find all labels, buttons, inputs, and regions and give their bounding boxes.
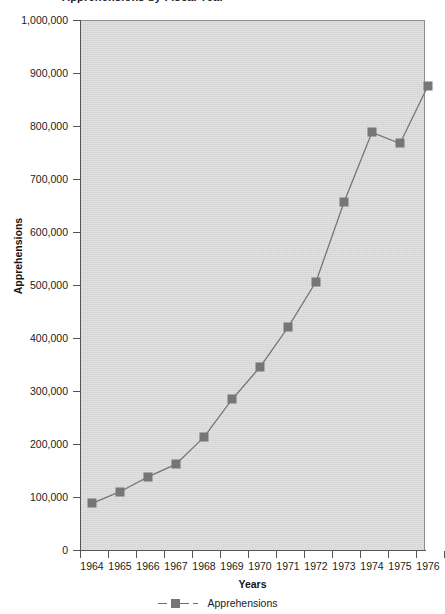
- y-axis-title: Apprehensions: [12, 176, 24, 336]
- plot-area: [80, 20, 425, 550]
- legend-entry-apprehensions: Apprehensions: [158, 597, 277, 609]
- x-axis-tick: [108, 551, 109, 558]
- data-point-marker: [256, 363, 265, 372]
- y-axis-tick: [73, 497, 80, 498]
- data-point-marker: [284, 323, 293, 332]
- data-point-marker: [396, 139, 405, 148]
- x-axis-tick: [192, 551, 193, 558]
- y-axis-tick-label: 300,000: [30, 386, 68, 397]
- plot-texture: [80, 21, 424, 550]
- legend-label: Apprehensions: [207, 597, 277, 609]
- x-axis-tick-label: 1964: [80, 561, 103, 572]
- data-point-marker: [340, 198, 349, 207]
- x-axis-tick: [276, 551, 277, 558]
- x-axis-tick-label: 1971: [276, 561, 299, 572]
- x-axis-tick-label: 1965: [108, 561, 131, 572]
- x-axis-tick-label: 1973: [332, 561, 355, 572]
- x-axis-tick-label: 1975: [388, 561, 411, 572]
- y-axis-tick: [73, 179, 80, 180]
- y-axis-tick-label: 800,000: [30, 121, 68, 132]
- x-axis-tick-label: 1967: [164, 561, 187, 572]
- x-axis-tick: [164, 551, 165, 558]
- y-axis-tick: [73, 550, 80, 551]
- y-axis-tick: [73, 126, 80, 127]
- x-axis-tick: [80, 551, 81, 558]
- y-axis-tick: [73, 232, 80, 233]
- x-axis-title: Years: [80, 578, 425, 590]
- y-axis-line: [80, 20, 81, 551]
- y-axis-tick-label: 600,000: [30, 227, 68, 238]
- data-point-marker: [172, 460, 181, 469]
- y-axis-tick-label: 400,000: [30, 333, 68, 344]
- y-axis-tick-label: 700,000: [30, 174, 68, 185]
- data-point-marker: [88, 499, 97, 508]
- y-axis-tick: [73, 444, 80, 445]
- x-axis-tick: [220, 551, 221, 558]
- data-point-marker: [312, 277, 321, 286]
- data-point-marker: [228, 395, 237, 404]
- y-axis-tick-label: 200,000: [30, 439, 68, 450]
- data-point-marker: [116, 487, 125, 496]
- x-axis-tick-label: 1968: [192, 561, 215, 572]
- y-axis-tick-label: 0: [62, 545, 68, 556]
- x-axis-tick-label: 1974: [360, 561, 383, 572]
- y-axis-tick: [73, 391, 80, 392]
- x-axis-line: [80, 550, 426, 551]
- x-axis-tick-label: 1970: [248, 561, 271, 572]
- x-axis-tick: [388, 551, 389, 558]
- legend-square-marker-icon: [171, 599, 180, 608]
- y-axis-tick: [73, 73, 80, 74]
- y-axis-tick-label: 500,000: [30, 280, 68, 291]
- data-point-marker: [200, 433, 209, 442]
- x-axis-tick: [416, 551, 417, 558]
- y-axis-tick: [73, 285, 80, 286]
- x-axis-tick: [248, 551, 249, 558]
- x-axis-tick: [304, 551, 305, 558]
- x-axis-tick-label: 1966: [136, 561, 159, 572]
- x-axis-tick-label: 1969: [220, 561, 243, 572]
- data-point-marker: [424, 81, 433, 90]
- y-axis-tick-label: 1,000,000: [21, 15, 68, 26]
- y-axis-tick-label: 100,000: [30, 492, 68, 503]
- legend-line-left: [158, 603, 167, 604]
- x-axis-tick-label: 1972: [304, 561, 327, 572]
- chart-legend: Apprehensions: [0, 592, 436, 614]
- x-axis-tick: [332, 551, 333, 558]
- x-axis-tick: [360, 551, 361, 558]
- y-axis-tick: [73, 338, 80, 339]
- legend-line-mid: [180, 603, 189, 604]
- x-axis-tick-label: 1976: [416, 561, 439, 572]
- x-axis-tick: [136, 551, 137, 558]
- y-axis-tick-label: 900,000: [30, 68, 68, 79]
- legend-line-right: [193, 603, 198, 604]
- y-axis-tick: [73, 20, 80, 21]
- data-point-marker: [144, 472, 153, 481]
- data-point-marker: [368, 128, 377, 137]
